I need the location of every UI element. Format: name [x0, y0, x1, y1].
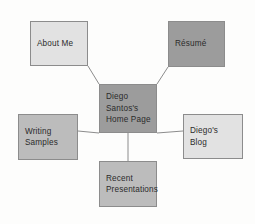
node-diegos-blog[interactable]: Diego'sBlog	[183, 114, 243, 159]
node-label-line: Samples	[25, 137, 58, 149]
node-label-line: Résumé	[175, 38, 206, 50]
node-label-line: Home Page	[106, 114, 151, 126]
node-recent-presentations[interactable]: RecentPresentations	[99, 161, 157, 207]
node-about-me[interactable]: About Me	[30, 21, 88, 66]
node-label-line: Presentations	[106, 184, 158, 196]
site-map-diagram: About Me Résumé DiegoSantos'sHome Page W…	[0, 0, 255, 224]
node-label-line: Diego's	[190, 125, 218, 137]
node-resume[interactable]: Résumé	[168, 21, 225, 67]
connector-home-to-resume	[157, 67, 168, 84]
node-label-line: Writing	[25, 126, 51, 138]
connector-home-to-about-me	[88, 66, 99, 84]
connector-home-to-writing-samples	[78, 131, 99, 133]
node-label-line: Recent	[106, 173, 133, 185]
node-label-line: About Me	[37, 38, 73, 50]
node-home-page[interactable]: DiegoSantos'sHome Page	[99, 84, 157, 133]
node-label-line: Diego	[106, 91, 128, 103]
connector-home-to-diegos-blog	[157, 131, 183, 133]
node-writing-samples[interactable]: WritingSamples	[18, 114, 78, 160]
node-label-line: Santos's	[106, 103, 138, 115]
node-label-line: Blog	[190, 137, 207, 149]
